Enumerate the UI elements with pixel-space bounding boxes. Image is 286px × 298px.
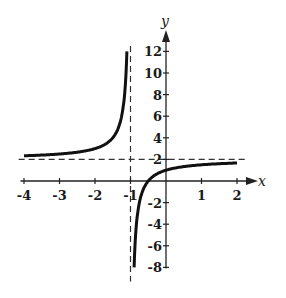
x-tick-label: 2 — [232, 188, 241, 203]
y-tick-label: -2 — [148, 196, 162, 211]
graph: -4-3-2-11212108642-2-4-6-8 x y — [0, 0, 286, 298]
x-tick-label: -3 — [52, 188, 66, 203]
y-tick-label: 4 — [153, 131, 162, 146]
y-tick-label: 10 — [144, 66, 162, 81]
y-tick-label: 12 — [144, 44, 162, 59]
x-axis-arrow-icon — [246, 177, 258, 185]
y-axis-arrow-icon — [162, 30, 170, 42]
x-tick-label: -1 — [123, 188, 137, 203]
y-tick-label: 8 — [153, 88, 162, 103]
y-tick-label: 6 — [153, 109, 162, 124]
y-tick-label: -4 — [148, 217, 162, 232]
x-tick-label: -4 — [17, 188, 31, 203]
y-tick-label: -8 — [148, 260, 162, 275]
left-branch-curve — [24, 51, 127, 155]
x-axis-label: x — [258, 173, 266, 189]
x-tick-label: -2 — [88, 188, 102, 203]
axes — [20, 30, 258, 268]
x-tick-label: 1 — [197, 188, 206, 203]
y-tick-label: -6 — [148, 239, 162, 254]
y-tick-label: 2 — [153, 152, 162, 167]
y-axis-label: y — [160, 13, 170, 29]
